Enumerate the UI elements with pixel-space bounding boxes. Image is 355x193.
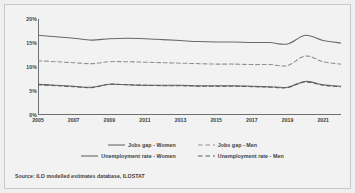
y-tick-10: 10% [26, 64, 37, 70]
legend-item-2[interactable]: Unemployment rate - Women [81, 153, 175, 159]
legend-swatch-solid-icon [81, 153, 98, 159]
x-tick-2011: 2011 [139, 117, 150, 123]
x-tick-2021: 2021 [317, 117, 329, 123]
plot-wrapper: 0%5%10%15%20% 20052007200920112013201520… [15, 19, 345, 131]
x-tick-2013: 2013 [175, 117, 187, 123]
legend-row-2: Unemployment rate - WomenUnemployment ra… [15, 150, 350, 161]
series-line-0 [38, 35, 341, 44]
y-tick-5: 5% [29, 88, 37, 94]
legend-item-3[interactable]: Unemployment rate - Men [198, 153, 284, 159]
legend-label-2: Unemployment rate - Women [101, 153, 175, 159]
x-tick-2015: 2015 [210, 117, 222, 123]
legend-label-1: Jobs gap - Men [218, 142, 257, 148]
legend-label-0: Jobs gap - Women [128, 142, 176, 148]
chart-figure: 0%5%10%15%20% 20052007200920112013201520… [0, 0, 355, 193]
x-tick-2005: 2005 [32, 117, 44, 123]
legend-swatch-dashed-icon [198, 142, 215, 148]
legend-row-1: Jobs gap - WomenJobs gap - Men [15, 139, 350, 150]
legend-swatch-solid-icon [108, 142, 125, 148]
plot-area [38, 19, 341, 115]
series-canvas [38, 19, 341, 115]
y-tick-15: 15% [26, 40, 37, 46]
x-tick-2017: 2017 [246, 117, 258, 123]
source-note: Source: ILO modelled estimates database,… [15, 173, 145, 179]
legend-swatch-dashed-icon [198, 153, 215, 159]
chart-frame: 0%5%10%15%20% 20052007200920112013201520… [4, 4, 351, 189]
legend-item-0[interactable]: Jobs gap - Women [108, 142, 176, 148]
y-tick-20: 20% [26, 16, 37, 22]
x-axis-tick-labels: 200520072009201120132015201720192021 [38, 117, 341, 131]
legend-item-1[interactable]: Jobs gap - Men [198, 142, 257, 148]
series-line-1 [38, 56, 341, 66]
y-axis-tick-labels: 0%5%10%15%20% [15, 19, 37, 115]
x-tick-2019: 2019 [282, 117, 294, 123]
x-tick-2009: 2009 [104, 117, 116, 123]
legend-label-3: Unemployment rate - Men [218, 153, 284, 159]
x-tick-2007: 2007 [68, 117, 80, 123]
chart-legend: Jobs gap - WomenJobs gap - Men Unemploym… [15, 139, 350, 165]
